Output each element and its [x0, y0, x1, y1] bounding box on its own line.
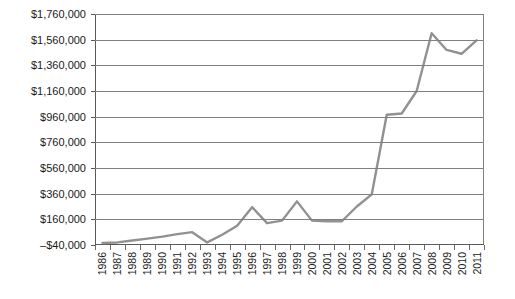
y-axis-tick-label: $1,560,000: [31, 34, 86, 46]
gridline: [95, 219, 484, 220]
y-axis-labels: –$40,000$160,000$360,000$560,000$760,000…: [0, 0, 93, 299]
x-axis-tick: [394, 245, 395, 250]
x-axis-tick: [275, 245, 276, 250]
y-axis-tick: [91, 14, 95, 15]
x-axis-tick: [424, 245, 425, 250]
x-axis-tick-label: 2006: [396, 252, 408, 275]
y-axis-tick-label: –$40,000: [40, 239, 86, 251]
x-axis-tick-label: 1992: [186, 252, 198, 275]
x-axis-tick: [304, 245, 305, 250]
x-axis-tick-label: 2000: [306, 252, 318, 275]
data-series-line: [95, 14, 484, 245]
x-axis-tick-label: 2008: [426, 252, 438, 275]
x-axis-tick: [409, 245, 410, 250]
x-axis-tick-label: 1997: [261, 252, 273, 275]
x-axis-tick: [260, 245, 261, 250]
x-axis-tick-label: 1994: [216, 252, 228, 275]
y-axis-tick-label: $1,360,000: [31, 59, 86, 71]
gridline: [95, 142, 484, 143]
x-axis-tick: [200, 245, 201, 250]
x-axis-tick-label: 1996: [246, 252, 258, 275]
gridline: [95, 194, 484, 195]
y-axis-tick-label: $760,000: [40, 136, 86, 148]
y-axis-tick: [91, 219, 95, 220]
gridline: [95, 14, 484, 15]
y-axis-tick: [91, 168, 95, 169]
y-axis-tick-label: $1,160,000: [31, 85, 86, 97]
y-axis-tick: [91, 65, 95, 66]
x-axis-tick-label: 2003: [351, 252, 363, 275]
y-axis-tick: [91, 142, 95, 143]
x-axis-tick: [155, 245, 156, 250]
x-axis-tick-label: 2004: [366, 252, 378, 275]
x-axis-tick-label: 2001: [321, 252, 333, 275]
y-axis-tick: [91, 194, 95, 195]
x-axis-tick: [125, 245, 126, 250]
y-axis-tick: [91, 91, 95, 92]
x-axis-tick-label: 1991: [171, 252, 183, 275]
y-axis-tick-label: $560,000: [40, 162, 86, 174]
gridline: [95, 91, 484, 92]
gridline: [95, 40, 484, 41]
line-chart: –$40,000$160,000$360,000$560,000$760,000…: [0, 0, 515, 299]
x-axis-tick-label: 1999: [291, 252, 303, 275]
x-axis-tick: [439, 245, 440, 250]
x-axis-tick: [379, 245, 380, 250]
x-axis-tick-label: 2010: [456, 252, 468, 275]
x-axis-tick: [334, 245, 335, 250]
x-axis-tick: [319, 245, 320, 250]
x-axis-tick-label: 1986: [96, 252, 108, 275]
x-axis-tick: [364, 245, 365, 250]
x-axis-tick: [170, 245, 171, 250]
x-axis-tick-label: 2002: [336, 252, 348, 275]
x-axis-tick: [245, 245, 246, 250]
y-axis-tick: [91, 117, 95, 118]
x-axis-tick-label: 1990: [156, 252, 168, 275]
x-axis-tick: [484, 245, 485, 250]
x-axis-tick-label: 1993: [201, 252, 213, 275]
y-axis-tick-label: $160,000: [40, 213, 86, 225]
x-axis-tick-label: 1998: [276, 252, 288, 275]
x-axis-tick-label: 1987: [111, 252, 123, 275]
x-axis-ticks: [95, 245, 484, 251]
x-axis-tick-label: 2005: [381, 252, 393, 275]
x-axis-tick-label: 2007: [411, 252, 423, 275]
x-axis-tick: [230, 245, 231, 250]
plot-area: [95, 14, 484, 245]
x-axis-tick-label: 2009: [441, 252, 453, 275]
x-axis-tick: [469, 245, 470, 250]
x-axis-tick-label: 2011: [471, 252, 483, 275]
x-axis-tick: [215, 245, 216, 250]
y-axis-tick-label: $1,760,000: [31, 8, 86, 20]
y-axis-tick-label: $360,000: [40, 188, 86, 200]
x-axis-labels: 1986198719881989199019911992199319941995…: [95, 252, 484, 299]
x-axis-tick: [349, 245, 350, 250]
x-axis-tick-label: 1989: [141, 252, 153, 275]
x-axis-tick: [110, 245, 111, 250]
gridline: [95, 65, 484, 66]
x-axis-tick-label: 1988: [126, 252, 138, 275]
x-axis-tick: [185, 245, 186, 250]
x-axis-tick: [95, 245, 96, 250]
x-axis-tick: [454, 245, 455, 250]
y-axis-tick: [91, 40, 95, 41]
y-axis-tick-label: $960,000: [40, 111, 86, 123]
x-axis-tick: [140, 245, 141, 250]
gridline: [95, 168, 484, 169]
x-axis-tick: [290, 245, 291, 250]
gridline: [95, 117, 484, 118]
x-axis-tick-label: 1995: [231, 252, 243, 275]
